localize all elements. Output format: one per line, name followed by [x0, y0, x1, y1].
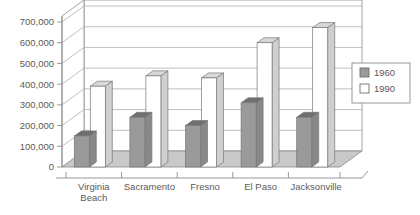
- x-axis-category-label: El Paso: [244, 181, 277, 192]
- x-axis-end-cap: [362, 171, 368, 178]
- y-axis-tick-label: 200,000: [20, 120, 54, 131]
- y-axis-tick-label: 500,000: [20, 58, 54, 69]
- bar-1960-0: [74, 131, 96, 167]
- bar-1960-1-front: [130, 117, 145, 167]
- bar-1960-2-side: [201, 121, 208, 167]
- bar-1960-4: [297, 112, 319, 167]
- population-bar-chart: 0100,000200,000300,000400,000500,000600,…: [0, 0, 420, 215]
- bar-1960-3-side: [256, 98, 263, 167]
- bar-1990-4-side: [328, 23, 335, 167]
- bar-1960-0-front: [74, 136, 89, 167]
- legend-swatch-1960: [360, 68, 369, 77]
- bar-1990-0-side: [105, 81, 112, 167]
- y-axis-tick-label: 600,000: [20, 37, 54, 48]
- bar-1990-3-side: [272, 38, 279, 167]
- bar-1960-1-side: [145, 112, 152, 167]
- x-axis-category-label: Jacksonville: [291, 181, 342, 192]
- x-axis-category-label: Fresno: [190, 181, 220, 192]
- bar-1960-3-front: [241, 103, 256, 167]
- bar-1960-2-front: [186, 126, 201, 167]
- y-axis-tick-label: 100,000: [20, 141, 54, 152]
- bar-1960-4-front: [297, 117, 312, 167]
- bar-1960-0-side: [89, 131, 96, 167]
- y-axis-tick-label: 300,000: [20, 99, 54, 110]
- bar-1990-1-side: [161, 71, 168, 167]
- bar-1960-4-side: [312, 112, 319, 167]
- bar-1960-3: [241, 98, 263, 167]
- bar-1960-2: [186, 121, 208, 167]
- x-axis-category-label: Sacramento: [124, 181, 175, 192]
- bar-1960-1: [130, 112, 152, 167]
- x-axis-category-label: Beach: [80, 192, 107, 203]
- y-axis-tick-label: 400,000: [20, 79, 54, 90]
- legend-label-1990: 1990: [374, 83, 395, 94]
- bar-1990-2-side: [217, 73, 224, 167]
- legend-label-1960: 1960: [374, 67, 395, 78]
- legend-swatch-1990: [360, 84, 369, 93]
- chart-canvas: 0100,000200,000300,000400,000500,000600,…: [0, 0, 420, 215]
- x-axis-category-label: Virginia: [78, 181, 110, 192]
- y-axis-tick-label: 700,000: [20, 16, 54, 27]
- y-axis-tick-label: 0: [49, 161, 54, 172]
